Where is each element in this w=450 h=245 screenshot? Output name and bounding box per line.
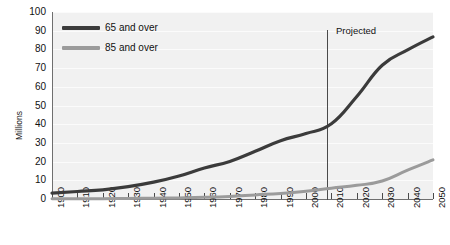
chart-container: 0102030405060708090100 Millions 19001910…	[0, 0, 450, 245]
series-line-65-and-over	[52, 37, 433, 193]
series-lines-layer	[0, 0, 450, 245]
series-line-85-and-over	[52, 160, 433, 199]
